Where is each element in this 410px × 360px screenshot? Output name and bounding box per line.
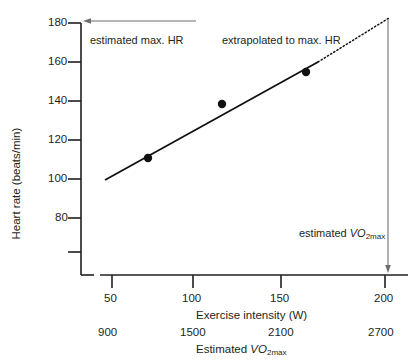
annotation-vo2max-post: max (370, 232, 385, 241)
data-points (144, 68, 310, 162)
y-tick-label-140: 140 (48, 95, 67, 107)
x2-tick-label-1500: 1500 (180, 327, 206, 339)
y-tick-label-180: 180 (48, 17, 67, 29)
x-axis-title: Exercise intensity (W) (196, 310, 307, 322)
x2-tick-label-2100: 2100 (268, 327, 294, 339)
y-axis-ticks (68, 23, 81, 252)
y-tick-label-100: 100 (48, 173, 67, 185)
y-tick-label-120: 120 (48, 134, 67, 146)
data-point-3 (302, 68, 310, 76)
x2-axis-title-pre: Estimated (196, 343, 250, 355)
annotation-estimated-vo2max: estimated VO2max (299, 228, 385, 239)
y-tick-label-160: 160 (48, 56, 67, 68)
chart-figure: 180 160 140 120 100 80 Heart rate (beats… (0, 0, 410, 360)
data-point-2 (218, 100, 226, 108)
x2-axis-title-post: max (271, 348, 286, 357)
y-tick-label-80: 80 (55, 212, 68, 224)
annotation-vo2max-vo: VO (350, 227, 366, 239)
annotation-extrapolated-to-max-hr: extrapolated to max. HR (222, 35, 341, 46)
data-point-1 (144, 154, 152, 162)
x-tick-label-50: 50 (104, 293, 117, 305)
x2-tick-label-900: 900 (98, 327, 117, 339)
regression-line (105, 62, 318, 180)
x-tick-label-100: 100 (182, 293, 201, 305)
x2-axis-title: Estimated VO2max (196, 344, 287, 356)
estimated-max-hr-arrow (83, 18, 196, 24)
x2-axis-title-vo: VO (250, 343, 267, 355)
x-axis-ticks (112, 275, 385, 288)
x2-tick-label-2700: 2700 (368, 327, 394, 339)
x-tick-label-150: 150 (270, 293, 289, 305)
annotation-estimated-max-hr: estimated max. HR (90, 35, 184, 46)
annotation-vo2max-pre: estimated (299, 227, 350, 239)
y-axis-title: Heart rate (beats/min) (11, 128, 23, 240)
x-tick-label-200: 200 (374, 293, 393, 305)
estimated-vo2max-arrow (385, 19, 391, 273)
